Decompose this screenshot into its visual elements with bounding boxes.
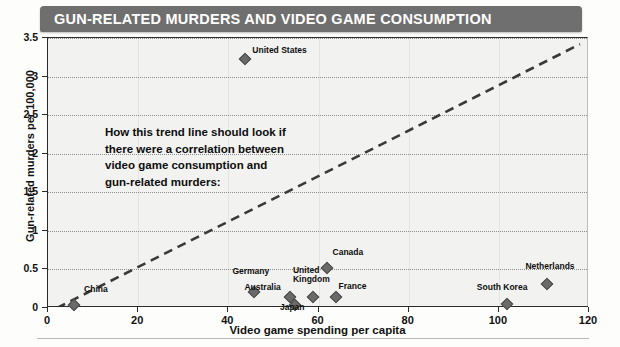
data-point-label: Japan — [280, 303, 305, 313]
x-axis-tick — [588, 307, 589, 312]
data-point-label: Germany — [232, 267, 269, 277]
y-axis-tick-label: 1.5 — [0, 185, 38, 197]
x-axis-tick-label: 20 — [107, 314, 167, 326]
data-point-label: United States — [252, 46, 306, 56]
data-point-label: Netherlands — [525, 262, 574, 272]
x-axis-tick-label: 40 — [197, 314, 257, 326]
x-axis-tick-label: 120 — [558, 314, 618, 326]
x-axis-tick-label: 60 — [288, 314, 348, 326]
trend-line-annotation: How this trend line should look if there… — [105, 124, 320, 190]
data-point-label: Canada — [333, 248, 364, 258]
y-axis-tick — [42, 191, 47, 192]
y-axis-tick-label: 2.5 — [0, 108, 38, 120]
y-axis-tick — [42, 230, 47, 231]
x-axis-tick-label: 80 — [378, 314, 438, 326]
x-axis-tick-label: 0 — [17, 314, 77, 326]
y-axis-tick-label: 1 — [0, 224, 38, 236]
x-axis-tick — [227, 307, 228, 312]
x-axis-tick — [318, 307, 319, 312]
y-axis-tick — [42, 37, 47, 38]
y-axis-tick-label: 0.5 — [0, 262, 38, 274]
annotation-line-1: How this trend line should look if — [105, 124, 320, 141]
y-axis-tick-label: 3.5 — [0, 31, 38, 43]
y-axis-tick — [42, 268, 47, 269]
y-axis-tick — [42, 114, 47, 115]
y-axis-tick — [42, 153, 47, 154]
annotation-line-4: gun-related murders: — [105, 174, 320, 191]
x-axis-tick — [137, 307, 138, 312]
x-axis-tick — [498, 307, 499, 312]
x-axis-tick-label: 100 — [468, 314, 528, 326]
page-title: GUN-RELATED MURDERS AND VIDEO GAME CONSU… — [54, 11, 492, 27]
annotation-line-2: there were a correlation between — [105, 141, 320, 158]
y-axis-tick — [42, 76, 47, 77]
data-point-label: South Korea — [477, 283, 528, 293]
data-point-label: China — [84, 285, 108, 295]
annotation-line-3: video game consumption and — [105, 157, 320, 174]
y-axis-tick-label: 3 — [0, 70, 38, 82]
footer-divider — [37, 338, 589, 339]
x-axis-tick — [47, 307, 48, 312]
y-axis-tick-label: 0 — [0, 301, 38, 313]
chart-figure: GUN-RELATED MURDERS AND VIDEO GAME CONSU… — [0, 0, 620, 347]
x-axis-tick — [408, 307, 409, 312]
data-point-label: Australia — [244, 283, 280, 293]
data-point-label: France — [339, 282, 367, 292]
y-axis-tick-label: 2 — [0, 147, 38, 159]
chart-title-band: GUN-RELATED MURDERS AND VIDEO GAME CONSU… — [40, 6, 582, 32]
